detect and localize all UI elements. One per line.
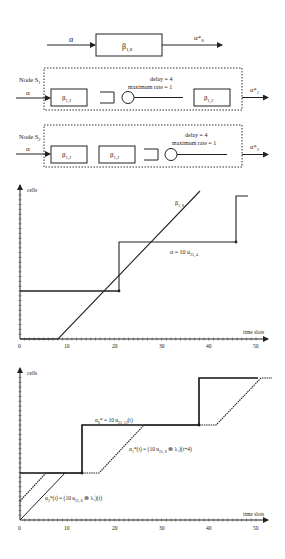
- node-s2-queue-icon: [144, 149, 158, 160]
- node-s1-scheduler-icon: [122, 92, 134, 104]
- node-s1-label: Node S: [19, 76, 39, 83]
- svg-text:α*2: α*2: [250, 143, 259, 152]
- svg-text:10: 10: [64, 343, 70, 349]
- node-s1-delay: delay = 4: [150, 76, 172, 82]
- chart1-ylabel: cells: [27, 187, 37, 193]
- svg-text:20: 20: [112, 525, 118, 531]
- node-s1-queue-icon: [100, 92, 114, 103]
- chart-1: cells time slots 0 10 20 30 40 50 β1, 8 …: [18, 185, 268, 349]
- chart2-xticks: 0 10 20 30 40 50: [18, 525, 259, 531]
- svg-text:Node S1: Node S1: [19, 76, 41, 85]
- chart1-xlabel: time slots: [243, 329, 264, 335]
- node-s1-rate: maximum rate = 1: [128, 84, 172, 90]
- node-s2-delay: delay = 4: [185, 132, 207, 138]
- svg-text:30: 30: [159, 525, 165, 531]
- chart2-alpha1-label: α1*(t) = (10 u25, 8 ⊗ λ₁)(t+4): [129, 446, 192, 455]
- node-s2: Node S2 α β1,2 β1,2 delay = 4 maximum ra…: [16, 125, 268, 167]
- node-s2-scheduler-icon: [165, 149, 177, 161]
- chart2-alpha2-label: α2*(t) = (10 u25, 8 ⊗ λ₁)(t): [45, 495, 102, 504]
- chart1-beta-curve: [20, 191, 200, 339]
- chart2-alpha0-curve: [20, 378, 258, 473]
- svg-text:20: 20: [112, 343, 118, 349]
- node-s2-label: Node S: [19, 133, 39, 140]
- svg-text:Node S2: Node S2: [19, 133, 41, 142]
- svg-text:0: 0: [18, 343, 21, 349]
- svg-text:10: 10: [64, 525, 70, 531]
- svg-text:40: 40: [206, 343, 212, 349]
- chart1-alpha-curve: [119, 196, 248, 291]
- svg-text:α: α: [26, 145, 30, 153]
- svg-text:α: α: [26, 89, 30, 97]
- svg-text:30: 30: [159, 343, 165, 349]
- svg-text:β1, 8: β1, 8: [175, 200, 184, 209]
- svg-text:50: 50: [253, 525, 259, 531]
- chart1-alpha-label: α = 10 u: [170, 249, 190, 255]
- svg-text:α = 10 u25, 4: α = 10 u25, 4: [170, 249, 198, 258]
- chart2-xlabel: time slots: [243, 511, 264, 517]
- svg-text:40: 40: [206, 525, 212, 531]
- svg-text:α*1: α*1: [250, 86, 259, 95]
- top-block: α β1,8 α*0: [47, 34, 222, 56]
- top-input-label: α: [69, 35, 74, 44]
- node-s1: Node S1 α β1,2 delay = 4 maximum rate = …: [16, 68, 268, 110]
- chart1-xticks: 0 10 20 30 40 50: [18, 343, 259, 349]
- svg-text:50: 50: [253, 343, 259, 349]
- svg-text:α*0: α*0: [194, 34, 204, 43]
- chart-2: cells time slots 0 10 20 30 40 50 α0* = …: [18, 368, 272, 531]
- svg-text:0: 0: [18, 525, 21, 531]
- node-s2-rate: maximum rate = 1: [172, 140, 216, 146]
- network-calculus-figure: α β1,8 α*0 Node S1 α β1,2 delay = 4 maxi…: [0, 0, 285, 559]
- top-server-box: [96, 34, 162, 56]
- chart2-ylabel: cells: [27, 370, 37, 376]
